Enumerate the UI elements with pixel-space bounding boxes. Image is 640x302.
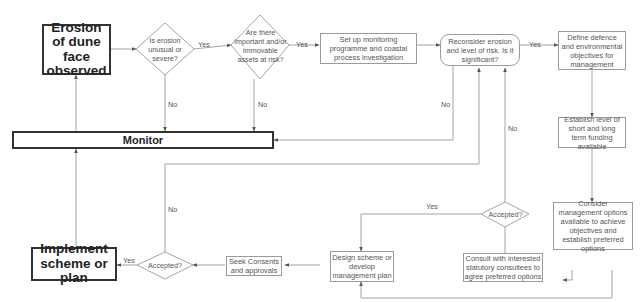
node-establish-funding: Establish level of short and long term f… <box>558 117 626 148</box>
node-implement: Implement scheme or plan <box>31 247 117 281</box>
node-monitor: Monitor <box>12 131 274 149</box>
label-reconsider-no: No <box>441 100 450 109</box>
node-accepted-right: Accepted? <box>483 208 528 220</box>
label-accepted-left-no: No <box>168 205 177 214</box>
node-reconsider: Reconsider erosion and level of risk. Is… <box>440 34 520 66</box>
node-define-objectives: Define defence and environmental objecti… <box>558 31 626 70</box>
node-setup-monitoring: Set up monitoring programme and coastal … <box>320 33 417 64</box>
label-assets-no: No <box>258 100 267 109</box>
label-accepted-left-yes: Yes <box>123 256 135 265</box>
node-is-unusual: Is erosion unusual or severe? <box>140 33 190 65</box>
label-accepted-right-yes: Yes <box>426 202 438 211</box>
label-assets-yes: Yes <box>296 40 308 49</box>
node-accepted-left: Accepted? <box>141 259 189 271</box>
node-consult: Consult with interested statutory consul… <box>463 253 543 282</box>
label-accepted-right-no: No <box>508 124 517 133</box>
flowchart: Erosion of dune face observed Is erosion… <box>0 0 640 302</box>
label-reconsider-yes: Yes <box>529 40 541 49</box>
label-unusual-yes: Yes <box>198 40 210 49</box>
node-design-scheme: Design scheme or develop management plan <box>330 251 394 282</box>
node-seek-consents: Seek Consents and approvals <box>226 256 282 276</box>
node-erosion-observed: Erosion of dune face observed <box>42 24 111 75</box>
node-consider-options: Consider management options available to… <box>553 202 633 250</box>
node-assets-at-risk: Are there important and/or immovable ass… <box>232 27 289 65</box>
label-unusual-no: No <box>168 100 177 109</box>
